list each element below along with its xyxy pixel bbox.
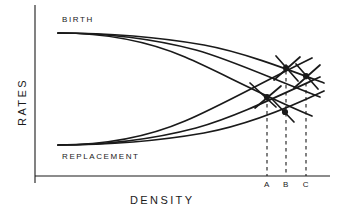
dropline-group <box>267 64 306 176</box>
birth-curve-label: BIRTH <box>62 15 94 24</box>
equilibrium-dot-lower <box>282 109 288 115</box>
birth-curve-1 <box>58 33 312 116</box>
birth-curve-3 <box>58 33 324 83</box>
replacement-curve-label: REPLACEMENT <box>62 152 140 161</box>
x-axis-label: DENSITY <box>130 194 194 206</box>
equilibrium-tick-label-c: C <box>300 180 312 189</box>
equilibrium-tick-label-a: A <box>261 180 273 189</box>
birth-curve-family <box>58 33 324 116</box>
equilibrium-tick-label-b: B <box>280 180 292 189</box>
population-rates-figure: BIRTH REPLACEMENT DENSITY RATES A B C <box>0 0 356 215</box>
y-axis-label: RATES <box>16 72 28 132</box>
